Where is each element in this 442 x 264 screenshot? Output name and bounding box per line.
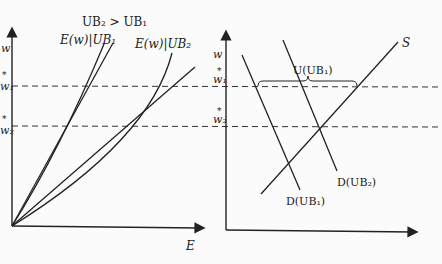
unemployment-brace (258, 76, 357, 86)
diagram-canvas: UB₂ > UB₁ E(w)|UB₁ E(w)|UB₂ w * w₁ * w₂ … (0, 0, 442, 264)
left-y-axis-label: w (1, 42, 11, 55)
right-panel: w * w₁ * w₂ S D(UB₁) D(UB₂) U(UB₁) (213, 35, 413, 232)
demand-ub2-label: D(UB₂) (337, 176, 376, 189)
demand-ub1-line (242, 55, 300, 190)
left-x-axis (12, 226, 200, 228)
supply-label: S (402, 36, 410, 50)
left-w2-star: * (2, 114, 7, 124)
e-ub2-label: E(w)|UB₂ (134, 37, 191, 51)
e-ub2-curve (12, 53, 172, 226)
unemployment-label: U(UB₁) (293, 64, 333, 77)
left-w1-label: w₁ (0, 80, 14, 93)
demand-ub1-label: D(UB₁) (286, 195, 325, 208)
left-panel: UB₂ > UB₁ E(w)|UB₁ E(w)|UB₂ w * w₁ * w₂ … (0, 15, 200, 253)
left-w1-star: * (2, 70, 7, 80)
demand-ub2-line (283, 40, 337, 171)
header-condition: UB₂ > UB₁ (82, 15, 147, 29)
right-y-axis-label: w (213, 48, 223, 61)
e-ub1-label: E(w)|UB₁ (59, 33, 116, 47)
e-ub2-line (12, 67, 195, 226)
right-w2-label: w₂ (213, 113, 227, 126)
left-w2-label: w₂ (0, 124, 14, 137)
e-ub1-curve (12, 44, 104, 226)
left-x-axis-label: E (185, 239, 195, 253)
right-w1-label: w₁ (213, 73, 227, 86)
right-x-axis (226, 230, 413, 232)
e-ub1-line (12, 43, 113, 226)
